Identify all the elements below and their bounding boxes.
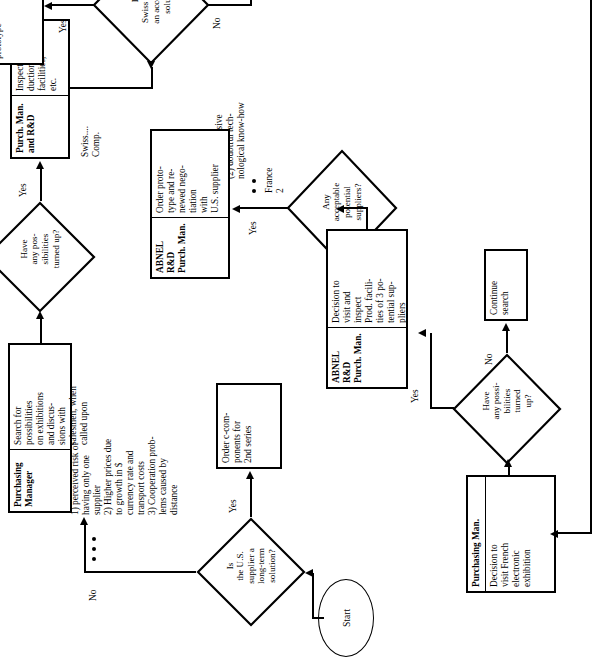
purchasing-manager-search-body: Search for possibilities on exhibitions … xyxy=(10,345,70,449)
ellipsis-dots-france xyxy=(252,179,256,193)
start-label: Start xyxy=(341,609,352,627)
edge-label-yes-add-firm: Yes xyxy=(58,19,69,33)
edge-label-yes-visit-inspect: Yes xyxy=(410,389,421,403)
purchasing-man-exhibition-header: Purchasing Man. xyxy=(468,477,486,591)
purch-man-rd-header: Purch. Man. and R&D xyxy=(12,95,68,157)
abnel-order-prototype-body: Order proto- type and re- newed nego- ti… xyxy=(152,131,228,217)
edge-inspect-to-swiss xyxy=(151,67,153,89)
arrowhead-any-yes xyxy=(232,205,240,213)
edge-start-to-decision xyxy=(312,617,324,619)
edge-swiss-no-h xyxy=(250,0,252,6)
edge-us-no-h xyxy=(84,523,86,573)
decision-is-us-supplier-longterm: Is the U.S. supplier a long-term solutio… xyxy=(196,517,306,627)
decision-have-possibilities-2: Have any possi- bilities turned up? xyxy=(452,353,562,465)
add-firm-text: Add firm to list of approved suppliers f… xyxy=(0,0,4,59)
edge-us-no xyxy=(84,571,196,573)
arrowhead-feedback-exhibition xyxy=(550,530,558,538)
arrowhead-swiss-yes xyxy=(44,2,52,10)
feedback-line-h xyxy=(590,0,592,534)
node-purchasing-manager-search: Purchasing Manager Search for possibilit… xyxy=(8,343,72,513)
node-abnel-order-prototype: ABNEL R&D Purch. Man. Order proto- type … xyxy=(150,129,230,279)
edge-label-yes-inspect: Yes xyxy=(18,183,29,197)
arrowhead-us-yes xyxy=(246,471,254,479)
decision-have-possibilities-1: Have any pos- sibilities turned up? xyxy=(0,201,96,313)
abnel-visit-inspect-body: Decision to visit and inspect Prod. faci… xyxy=(328,231,406,327)
edge-label-no-1: No xyxy=(88,590,99,601)
abnel-visit-inspect-header: ABNEL R&D Purch. Man. xyxy=(328,327,406,387)
edge-any-yes-v xyxy=(238,207,288,209)
arrowhead-have1-yes xyxy=(36,161,44,169)
start-node: Start xyxy=(318,579,374,657)
edge-swiss-no-v xyxy=(208,4,250,6)
arrowhead-have2-yes xyxy=(418,329,426,337)
purchasing-man-exhibition-body: Decision to visit French electronic exhi… xyxy=(486,477,554,591)
edge-swiss-yes xyxy=(50,4,94,6)
edge-have1-yes xyxy=(40,167,42,201)
arrowhead-exhibition-have2 xyxy=(504,459,512,467)
feedback-line-v1 xyxy=(556,532,592,534)
arrowhead-us-no xyxy=(80,517,88,525)
purchasing-manager-search-header: Purchasing Manager xyxy=(10,449,70,511)
arrowhead-have2-no xyxy=(502,323,510,331)
node-abnel-visit-inspect: ABNEL R&D Purch. Man. Decision to visit … xyxy=(326,229,408,389)
arrowhead-visit-any xyxy=(336,205,344,213)
edge-have2-yes-h xyxy=(430,333,432,409)
edge-have2-yes-v xyxy=(430,407,454,409)
decision-have-possibilities-2-label: Have any possi- bilities turned up? xyxy=(452,337,562,465)
arrowhead-start-decision xyxy=(305,569,313,577)
node-order-components: Order c-com- ponents for 2nd series xyxy=(216,383,282,469)
annotation-france: France 2 xyxy=(264,168,286,193)
edge-us-yes xyxy=(250,477,252,517)
continue-search-text: Continue search xyxy=(489,255,511,315)
edge-label-yes-order: Yes xyxy=(228,499,239,513)
decision-have-possibilities-1-label: Have any pos- sibilities turned up? xyxy=(0,185,96,313)
node-add-firm-approved: Add firm to list of approved suppliers f… xyxy=(0,0,44,65)
edge-inspect-to-swiss-v xyxy=(70,87,152,89)
edge-have2-no xyxy=(506,329,508,353)
node-purchasing-man-visit-exhibition: Purchasing Man. Decision to visit French… xyxy=(466,475,556,593)
order-components-text: Order c-com- ponents for 2nd series xyxy=(221,389,254,463)
edge-pm-to-have1 xyxy=(40,317,42,343)
edge-start-to-decision-h xyxy=(312,573,314,619)
abnel-order-prototype-header: ABNEL R&D Purch. Man. xyxy=(152,217,228,277)
node-continue-search: Continue search xyxy=(484,249,528,321)
annotation-swiss-comp: Swiss.... Comp. xyxy=(80,126,102,157)
ellipsis-dots-us xyxy=(92,537,96,561)
edge-label-yes-prototype: Yes xyxy=(248,221,259,235)
edge-visit-to-any-v xyxy=(342,207,368,209)
edge-visit-to-any-h xyxy=(366,207,368,229)
edge-label-no-continue: No xyxy=(484,354,495,365)
decision-is-us-supplier-label: Is the U.S. supplier a long-term solutio… xyxy=(196,505,306,627)
